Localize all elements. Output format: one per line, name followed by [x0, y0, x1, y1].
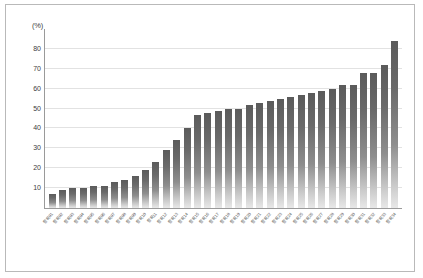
x-axis-tick-label: 항목01: [41, 211, 54, 224]
y-axis-tick-label: 70: [33, 64, 41, 71]
bar-slot: [120, 29, 130, 208]
chart-figure: (%) 8070605040302010 항목01항목02항목03항목04항목0…: [5, 4, 415, 272]
bar-slot: [182, 29, 192, 208]
bar[interactable]: [111, 182, 118, 208]
bar[interactable]: [370, 73, 377, 208]
bar-slot: [109, 29, 119, 208]
bar[interactable]: [194, 115, 201, 208]
bar-slot: [89, 29, 99, 208]
bar[interactable]: [246, 105, 253, 208]
bar-slot: [286, 29, 296, 208]
bar-slot: [234, 29, 244, 208]
bar[interactable]: [308, 93, 315, 208]
bar[interactable]: [80, 188, 87, 208]
bar[interactable]: [142, 170, 149, 208]
bar-slot: [317, 29, 327, 208]
bar-slot: [255, 29, 265, 208]
chart-canvas: (%) 8070605040302010 항목01항목02항목03항목04항목0…: [6, 5, 414, 271]
bar-slot: [213, 29, 223, 208]
bar-slot: [151, 29, 161, 208]
bar[interactable]: [235, 109, 242, 208]
bar[interactable]: [132, 176, 139, 208]
bar-slot: [265, 29, 275, 208]
bar-slot: [130, 29, 140, 208]
bar-slot: [379, 29, 389, 208]
bar[interactable]: [287, 97, 294, 208]
y-axis-tick-label: 80: [33, 44, 41, 51]
y-axis-unit-label: (%): [32, 21, 43, 30]
y-axis-tick-label: 60: [33, 84, 41, 91]
bar[interactable]: [163, 150, 170, 208]
bar-slot: [327, 29, 337, 208]
bar[interactable]: [318, 91, 325, 208]
bar-slot: [369, 29, 379, 208]
bar[interactable]: [298, 95, 305, 208]
bar-slot: [306, 29, 316, 208]
bar[interactable]: [121, 180, 128, 208]
bar-slot: [275, 29, 285, 208]
bar[interactable]: [391, 41, 398, 208]
y-axis-tick-label: 50: [33, 104, 41, 111]
bar[interactable]: [204, 113, 211, 208]
bar-slot: [358, 29, 368, 208]
bar-slot: [68, 29, 78, 208]
bar[interactable]: [59, 190, 66, 208]
y-axis-tick-label: 20: [33, 164, 41, 171]
bar[interactable]: [173, 140, 180, 208]
bar-slot: [244, 29, 254, 208]
bar[interactable]: [339, 85, 346, 208]
plot-area: 8070605040302010: [44, 29, 402, 209]
bar[interactable]: [215, 111, 222, 208]
bar[interactable]: [152, 162, 159, 208]
bar-slot: [192, 29, 202, 208]
bar[interactable]: [256, 103, 263, 208]
y-axis-tick-label: 40: [33, 124, 41, 131]
bar[interactable]: [350, 85, 357, 208]
bar-slot: [223, 29, 233, 208]
bar-slot: [296, 29, 306, 208]
bar-slot: [57, 29, 67, 208]
y-axis-tick-label: 30: [33, 144, 41, 151]
bar-slot: [161, 29, 171, 208]
bar[interactable]: [360, 73, 367, 208]
x-axis-labels-group: 항목01항목02항목03항목04항목05항목06항목07항목08항목09항목10…: [44, 210, 402, 270]
bar-slot: [203, 29, 213, 208]
bars-group: [45, 29, 402, 208]
bar[interactable]: [69, 188, 76, 208]
bar-slot: [172, 29, 182, 208]
bar[interactable]: [329, 89, 336, 208]
bar[interactable]: [184, 128, 191, 208]
bar-slot: [99, 29, 109, 208]
bar[interactable]: [101, 186, 108, 208]
x-label-slot: 항목34: [389, 210, 399, 270]
bar[interactable]: [90, 186, 97, 208]
bar[interactable]: [277, 99, 284, 208]
bar[interactable]: [381, 65, 388, 208]
bar-slot: [140, 29, 150, 208]
bar-slot: [78, 29, 88, 208]
bar-slot: [338, 29, 348, 208]
bar[interactable]: [267, 101, 274, 208]
y-axis-tick-label: 10: [33, 184, 41, 191]
bar[interactable]: [49, 194, 56, 208]
bar-slot: [47, 29, 57, 208]
bar[interactable]: [225, 109, 232, 208]
bar-slot: [389, 29, 399, 208]
bar-slot: [348, 29, 358, 208]
